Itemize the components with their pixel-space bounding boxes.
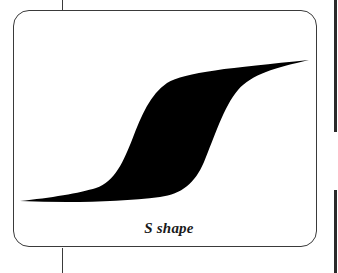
bottom-connector-line — [62, 248, 63, 273]
figure-caption: S shape — [0, 220, 338, 237]
s-shape-fill — [20, 60, 309, 202]
